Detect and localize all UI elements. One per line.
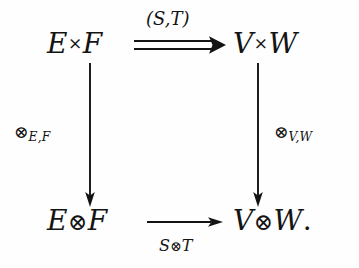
tensor-product-icon: ⊗ — [254, 209, 274, 235]
node-top-right-left-term: V — [233, 27, 254, 60]
node-top-right-right-term: W — [268, 27, 297, 60]
cartesian-product-icon: × — [68, 33, 83, 53]
left-arrow-graphic — [85, 63, 95, 207]
node-bottom-right-right-term: W — [274, 204, 303, 237]
node-bottom-right: V⊗W. — [233, 207, 312, 235]
right-arrow-graphic — [253, 63, 263, 207]
node-top-left-left-term: E — [47, 27, 68, 60]
left-arrow-label-subscript: E,F — [29, 130, 51, 144]
bottom-arrow-label-right-term: T — [182, 236, 193, 255]
node-top-left: E×F — [47, 30, 103, 58]
top-arrow-graphic — [134, 36, 226, 54]
bottom-arrow-label-left-term: S — [159, 236, 170, 255]
left-arrow-label: ⊗E,F — [14, 124, 50, 143]
commutative-diagram: V (x) W --> E×F V×W E⊗F V⊗W. (S,T) S⊗T ⊗… — [0, 0, 359, 268]
node-bottom-left-right-term: F — [88, 204, 108, 237]
top-arrow-label: (S,T) — [146, 10, 189, 28]
node-top-right: V×W — [233, 30, 298, 58]
node-bottom-right-left-term: V — [233, 204, 254, 237]
sentence-period: . — [303, 204, 312, 237]
node-bottom-left: E⊗F — [47, 207, 108, 235]
tensor-product-icon: ⊗ — [68, 209, 88, 235]
cartesian-product-icon: × — [254, 33, 269, 53]
right-arrow-label-subscript: V,W — [289, 130, 313, 144]
node-bottom-left-left-term: E — [47, 204, 68, 237]
tensor-product-icon: ⊗ — [274, 122, 289, 142]
tensor-product-icon: ⊗ — [14, 122, 29, 142]
right-arrow-label: ⊗V,W — [274, 124, 312, 143]
tensor-product-icon: ⊗ — [170, 238, 182, 254]
bottom-arrow-graphic — [147, 217, 223, 227]
bottom-arrow-label: S⊗T — [159, 238, 192, 254]
node-top-left-right-term: F — [83, 27, 103, 60]
